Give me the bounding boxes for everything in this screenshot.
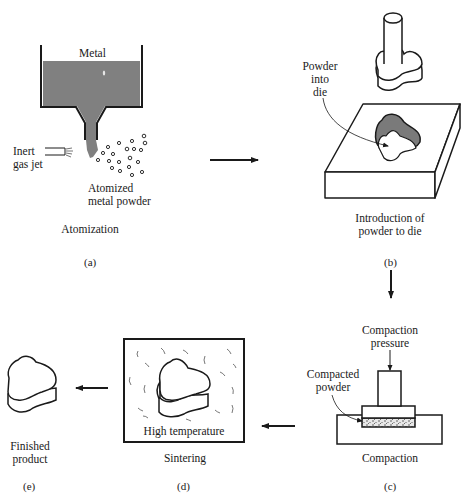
compacted-powder-label-line2: powder (298, 381, 368, 394)
die-block (325, 104, 460, 198)
caption-finished-line2: product (5, 453, 55, 466)
compacted-powder-label-line1: Compacted (298, 368, 368, 381)
tag-e: (e) (23, 480, 35, 492)
gas-jet-label-line2: gas jet (13, 158, 43, 171)
compaction-pressure-label-line1: Compaction (350, 324, 430, 337)
high-temperature-label: High temperature (128, 425, 240, 438)
caption-sintering: Sintering (150, 452, 220, 465)
caption-compaction: Compaction (350, 452, 430, 465)
powder-into-die-label-line2: into (295, 73, 345, 86)
metal-label: Metal (75, 47, 110, 60)
tag-c: (c) (384, 480, 396, 492)
tag-b: (b) (384, 256, 397, 268)
compaction-pressure-label-line2: pressure (350, 337, 430, 350)
tag-d: (d) (177, 480, 190, 492)
gas-jet-nozzle-icon (45, 148, 73, 157)
atomized-powder-label-line2: metal powder (88, 195, 151, 208)
caption-finished-line1: Finished (5, 440, 55, 453)
powder-into-die-label-line1: Powder (295, 60, 345, 73)
tag-a: (a) (84, 256, 96, 268)
punch (376, 13, 422, 90)
process-diagram (0, 0, 469, 498)
powder-into-die-label-line3: die (295, 86, 345, 99)
finished-part (8, 356, 56, 412)
atomized-powder-label-line1: Atomized (88, 182, 133, 195)
gas-jet-label-line1: Inert (13, 145, 35, 158)
caption-introduction-line1: Introduction of (345, 212, 435, 225)
powder-particles (96, 134, 146, 176)
caption-atomization: Atomization (50, 223, 130, 236)
caption-introduction-line2: powder to die (345, 225, 435, 238)
atomizer (41, 45, 142, 158)
